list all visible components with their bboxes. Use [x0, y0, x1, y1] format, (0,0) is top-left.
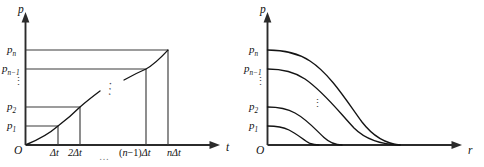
x-axis-label: r [468, 145, 472, 157]
y-tick-sub-pn: n [13, 50, 17, 58]
curve-pn-profile [268, 50, 401, 145]
x-tick-delta-t: Δt [142, 147, 151, 158]
y-tick-sub-p1: 1 [13, 126, 17, 134]
x-axis-horizontal-ellipsis: … [99, 152, 109, 162]
x-tick-label-dt: Δt [50, 148, 59, 158]
origin-label: O [256, 145, 264, 157]
chart-panel-stepwise-pressure-vs-time: p t O pn pn−1 ⋮ p2 p1 ⋰ Δt 2Δt … (n−1)Δt… [0, 0, 242, 167]
x-axis-arrow-icon [210, 141, 221, 149]
y-tick-sub-p2: 2 [13, 107, 17, 115]
y-tick-sub-p2: 2 [255, 107, 259, 115]
y-tick-label-p2: p2 [249, 101, 258, 115]
y-tick-sub-pn: n [255, 50, 259, 58]
x-tick-label-2dt: 2Δt [68, 148, 82, 158]
x-axis-label: t [226, 142, 229, 154]
pressure-curve-segment-lower [27, 91, 101, 145]
y-axis-label: p [260, 4, 266, 16]
x-tick-label-n-1-dt: (n−1)Δt [119, 148, 151, 158]
y-tick-sub-p1: 1 [255, 126, 259, 134]
y-axis-vertical-ellipsis: ⋮ [255, 76, 266, 87]
y-axis-label: p [18, 4, 24, 16]
y-tick-label-p1: p1 [7, 120, 16, 134]
y-tick-label-p1: p1 [249, 120, 258, 134]
chart-panel-pressure-vs-radius: p r O pn pn−1 ⋮ p2 p1 ⋮ [242, 0, 484, 167]
y-tick-label-pn: pn [249, 44, 258, 58]
origin-label: O [14, 145, 22, 157]
curve-p1-profile [268, 126, 320, 145]
curve-pn-1-profile [268, 69, 401, 145]
y-tick-label-p2: p2 [7, 101, 16, 115]
curve-p2-profile [268, 107, 343, 145]
y-tick-label-pn: pn [7, 44, 16, 58]
figure-root: p t O pn pn−1 ⋮ p2 p1 ⋰ Δt 2Δt … (n−1)Δt… [0, 0, 484, 167]
x-axis-arrow-icon [452, 141, 463, 149]
stepwise-pressure-plot-canvas [0, 0, 242, 167]
radial-pressure-plot-canvas [242, 0, 484, 167]
x-tick-label-n-dt: nΔt [167, 148, 181, 158]
y-axis-vertical-ellipsis: ⋮ [13, 76, 24, 87]
x-tick-minus-one: −1) [128, 147, 142, 158]
curve-family-vertical-ellipsis: ⋮ [312, 98, 323, 109]
